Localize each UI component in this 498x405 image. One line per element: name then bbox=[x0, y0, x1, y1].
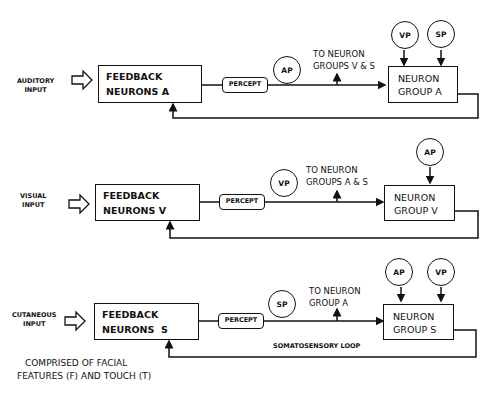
feedback-neurons-v-box: FEEDBACK NEURONS V bbox=[95, 184, 200, 221]
to-neuron-label: TO NEURONGROUPS V & S bbox=[313, 48, 375, 72]
neuron-group-s-box: NEURON GROUP S bbox=[383, 304, 454, 340]
neuron-group-v-box: NEURON GROUP V bbox=[384, 185, 455, 221]
percept-box: PERCEPT bbox=[222, 77, 268, 93]
input-circle-vp: VP bbox=[391, 21, 419, 49]
input-arrow-icon bbox=[72, 71, 92, 89]
neuron-group-a-box: NEURON GROUP A bbox=[388, 66, 458, 103]
percept-circle-vp: VP bbox=[270, 169, 298, 197]
percept-circle-ap: AP bbox=[273, 56, 301, 84]
auditory-input-label: AUDITORYINPUT bbox=[17, 77, 54, 95]
percept-box: PERCEPT bbox=[219, 194, 265, 210]
input-circle-ap: AP bbox=[416, 138, 444, 166]
feedback-neurons-s-box: FEEDBACK NEURONS S bbox=[94, 303, 199, 340]
input-circle-ap: AP bbox=[385, 258, 413, 286]
somatosensory-loop-label: SOMATOSENSORY LOOP bbox=[273, 342, 360, 351]
to-neuron-label: TO NEURONGROUPS A & S bbox=[306, 164, 368, 188]
input-circle-sp: SP bbox=[427, 20, 455, 48]
feedback-neurons-a-box: FEEDBACK NEURONS A bbox=[98, 65, 202, 103]
input-circle-vp: VP bbox=[427, 258, 455, 286]
to-neuron-label: TO NEURONGROUP A bbox=[309, 285, 361, 309]
cutaneous-note: COMPRISED OF FACIALFEATURES (F) AND TOUC… bbox=[17, 357, 151, 383]
percept-box: PERCEPT bbox=[218, 313, 264, 329]
cutaneous-input-label: CUTANEOUSINPUT bbox=[12, 311, 56, 329]
visual-input-label: VISUALINPUT bbox=[20, 192, 46, 210]
input-arrow-icon bbox=[69, 195, 89, 213]
input-arrow-icon bbox=[65, 312, 85, 330]
percept-circle-sp: SP bbox=[268, 290, 296, 318]
